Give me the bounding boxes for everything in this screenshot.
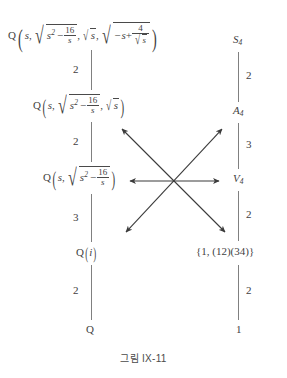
field-base-symbol: Q: [8, 29, 16, 41]
right-paren: ): [94, 246, 97, 262]
group-node-klein-sub: {1, (12)(34)}: [196, 246, 254, 257]
radical-s2-minus-16-over-s: √s2 −16s: [67, 166, 110, 189]
arg-i: i: [89, 246, 92, 258]
group-letter: V: [233, 172, 240, 184]
field-edge-2: [91, 122, 92, 162]
field-base-symbol: Q: [76, 246, 84, 258]
field-node-qi: Q(i): [76, 246, 98, 262]
radical-s: √s: [82, 28, 96, 42]
field-node-three: Q(s, √s2 −16s, √s): [33, 94, 126, 117]
right-paren: ): [112, 169, 116, 189]
figure-caption: 그림 IX-11: [0, 350, 287, 365]
radical-minus-s-plus-4-over-sqrt-s: √−s+4√s: [101, 22, 150, 47]
radical-s2-minus-16-over-s: √s2 −16s: [57, 94, 100, 117]
field-node-two: Q(s, √s2 −16s): [43, 166, 117, 189]
field-edge-1: [91, 50, 92, 90]
arrow-up-right: [126, 129, 222, 232]
field-edge-label-1: 2: [73, 64, 79, 75]
field-edge-label-4: 2: [73, 285, 79, 296]
field-base-symbol: Q: [86, 323, 94, 335]
radical-s: √s: [105, 98, 119, 112]
galois-correspondence-arrows: [0, 0, 287, 378]
radical-s2-minus-16-over-s: √s2 −16s: [34, 24, 77, 47]
group-node-s4: S4: [233, 34, 242, 46]
left-paren: (: [52, 169, 56, 189]
group-subscript: 4: [240, 109, 244, 118]
right-paren: ): [121, 97, 125, 117]
field-edge-3: [91, 194, 92, 242]
group-edge-label-3: 2: [246, 209, 252, 220]
group-node-trivial: 1: [236, 324, 242, 335]
group-subscript: 4: [240, 177, 244, 186]
group-edge-1: [238, 52, 239, 102]
arrow-up-left: [122, 129, 225, 232]
group-edge-label-2: 3: [246, 139, 252, 150]
field-base-symbol: Q: [43, 171, 51, 183]
field-base-symbol: Q: [33, 99, 41, 111]
group-subscript: 4: [239, 38, 243, 47]
left-paren: (: [85, 246, 88, 262]
group-edge-label-4: 2: [246, 285, 252, 296]
group-edge-2: [238, 123, 239, 169]
field-edge-4: [91, 265, 92, 320]
group-edge-label-1: 2: [246, 70, 252, 81]
right-paren: ): [152, 26, 157, 52]
figure-canvas: Q(s, √s2 −16s, √s, √−s+4√s) 2 Q(s, √s2 −…: [0, 0, 287, 378]
group-node-a4: A4: [233, 105, 243, 117]
field-edge-label-2: 2: [73, 136, 79, 147]
group-edge-3: [238, 191, 239, 241]
field-edge-label-3: 3: [73, 212, 79, 223]
left-paren: (: [42, 97, 46, 117]
field-node-full: Q(s, √s2 −16s, √s, √−s+4√s): [8, 22, 159, 52]
left-paren: (: [18, 26, 23, 52]
field-node-q: Q: [86, 324, 94, 335]
group-node-v4: V4: [233, 173, 243, 185]
group-letter: A: [233, 104, 240, 116]
group-edge-4: [238, 265, 239, 320]
